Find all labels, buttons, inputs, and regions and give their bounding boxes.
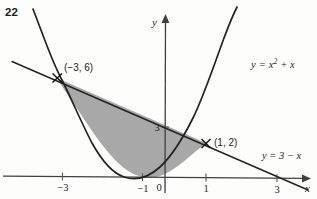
line-equation-label: y = 3 − x [261,150,302,161]
x-tick-label-neg1: −1 [137,183,148,194]
point-label-1-2: (1, 2) [214,137,237,148]
y-axis-arrowhead [162,14,170,23]
shaded-area-between-curves [57,78,206,178]
x-tick-label-1: 1 [203,183,208,194]
point-label-neg3-6: (−3, 6) [64,62,93,73]
parabola-equation-label: y=x2+ x [250,57,295,70]
exercise-number: 22 [5,6,18,18]
x-axis-label: x [304,182,310,194]
x-tick-label-3: 3 [274,184,279,195]
figure-panel: 22 [0,0,317,199]
origin-label: 0 [156,182,161,193]
x-tick-label-neg3: −3 [57,182,68,193]
y-tick-label-3: 3 [154,122,159,133]
y-axis-label: y [151,16,157,28]
graph-svg: −3 −1 1 3 0 3 y x (−3, 6) (1, 2) y=x2+ x… [0,0,317,199]
